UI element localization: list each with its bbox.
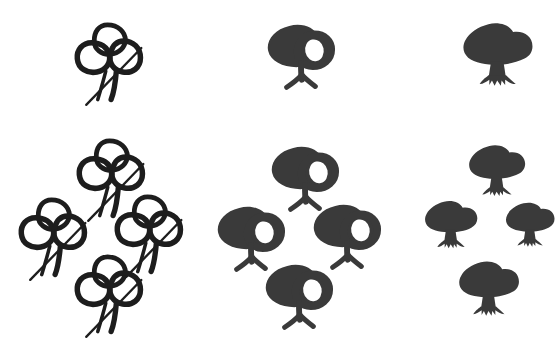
solid-tree-glyph bbox=[425, 201, 477, 248]
filled-gap-tree-group-bottom bbox=[262, 258, 336, 336]
solid-tree-group-left bbox=[424, 198, 480, 252]
solid-tree-glyph bbox=[459, 262, 519, 316]
solid-tree-group-bottom bbox=[458, 258, 522, 320]
figure-canvas bbox=[0, 0, 559, 364]
solid-tree-group-right bbox=[505, 200, 557, 250]
bottom-row bbox=[0, 0, 559, 364]
outlined-tree-glyph bbox=[77, 257, 140, 332]
solid-tree-glyph bbox=[469, 145, 525, 196]
filled-gap-tree-glyph bbox=[266, 265, 331, 327]
solid-tree-glyph bbox=[506, 203, 555, 247]
solid-tree-group-top bbox=[468, 142, 528, 200]
outlined-tree-group-bottom bbox=[72, 250, 152, 342]
